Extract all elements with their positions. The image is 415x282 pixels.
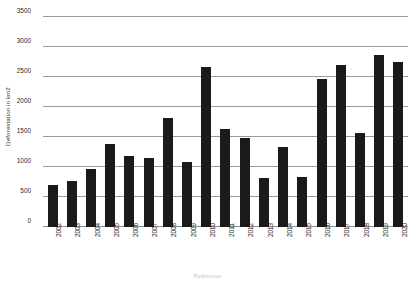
x-axis-tick-label: 2012 [247, 223, 254, 237]
y-axis-tick-label: 3000 [0, 37, 31, 44]
y-axis-title: Deforestation in km2 [0, 0, 14, 232]
bar-slot [62, 17, 81, 227]
bars-layer [43, 17, 408, 227]
bar[interactable] [297, 177, 307, 227]
x-axis-tick-label: 2008 [170, 223, 177, 237]
bar-slot [197, 17, 216, 227]
y-axis-tick-label: 0 [0, 217, 31, 224]
bar-slot [370, 17, 389, 227]
bar-slot [101, 17, 120, 227]
plot-area: 0500100015002000250030003500 20022003200… [43, 17, 408, 227]
bar[interactable] [182, 162, 192, 227]
bar-slot [331, 17, 350, 227]
x-axis-tick-label: 2019 [382, 223, 389, 237]
x-axis-tick-label: 2011 [228, 223, 235, 237]
y-axis-tick-label: 2000 [0, 97, 31, 104]
x-axis-tick-label: 2017 [343, 223, 350, 237]
bar[interactable] [201, 67, 211, 227]
x-axis-tick-label: 2013 [267, 223, 274, 237]
bar-slot [81, 17, 100, 227]
x-axis-tick-label: 2006 [132, 223, 139, 237]
bar-slot [120, 17, 139, 227]
bar-slot [235, 17, 254, 227]
bar[interactable] [374, 55, 384, 227]
y-axis-tick-label: 3500 [0, 7, 31, 14]
x-axis-tick-label: 2009 [190, 223, 197, 237]
bar[interactable] [259, 178, 269, 227]
bar-slot [312, 17, 331, 227]
x-axis-tick-label: 2020 [401, 223, 408, 237]
bar-slot [274, 17, 293, 227]
bar[interactable] [67, 181, 77, 228]
bar[interactable] [393, 62, 403, 227]
bar-chart: Deforestation in km2 0500100015002000250… [0, 0, 415, 282]
x-axis-tick-label: 2014 [286, 223, 293, 237]
bar[interactable] [163, 118, 173, 227]
x-axis-title: Reference [0, 272, 415, 279]
bar[interactable] [355, 133, 365, 227]
bar[interactable] [240, 138, 250, 227]
y-axis-tick-label: 500 [0, 187, 31, 194]
bar[interactable] [105, 144, 115, 227]
x-axis-tick-label: 2005 [113, 223, 120, 237]
bar-slot [254, 17, 273, 227]
bar[interactable] [86, 169, 96, 227]
bar-slot [216, 17, 235, 227]
x-axis-tick-label: 2007 [151, 223, 158, 237]
bar-slot [43, 17, 62, 227]
y-axis-tick-label: 2500 [0, 67, 31, 74]
bar[interactable] [278, 147, 288, 227]
y-axis-tick-label: 1000 [0, 157, 31, 164]
bar-slot [158, 17, 177, 227]
x-axis-tick-label: 2004 [94, 223, 101, 237]
x-axis-tick-label: 2016 [324, 223, 331, 237]
bar[interactable] [336, 65, 346, 227]
y-axis-tick-label: 1500 [0, 127, 31, 134]
bar[interactable] [144, 158, 154, 227]
x-axis-tick-label: 2003 [74, 223, 81, 237]
bar-slot [389, 17, 408, 227]
bar[interactable] [48, 185, 58, 227]
bar[interactable] [124, 156, 134, 227]
bar-slot [293, 17, 312, 227]
x-axis-tick-label: 2010 [209, 223, 216, 237]
y-axis-title-text: Deforestation in km2 [4, 87, 11, 146]
bar-slot [350, 17, 369, 227]
bar-slot [177, 17, 196, 227]
x-axis-tick-label: 2015 [305, 223, 312, 237]
x-axis-tick-label: 2002 [55, 223, 62, 237]
bar[interactable] [317, 79, 327, 227]
x-axis-tick-label: 2018 [363, 223, 370, 237]
bar[interactable] [220, 129, 230, 227]
bar-slot [139, 17, 158, 227]
